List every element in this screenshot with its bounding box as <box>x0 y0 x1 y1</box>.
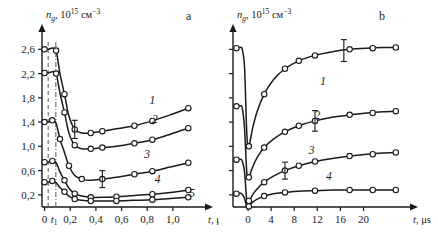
data-marker <box>370 187 375 192</box>
data-marker <box>42 47 47 52</box>
data-marker <box>261 193 266 198</box>
data-marker <box>186 160 191 165</box>
data-marker <box>347 153 352 158</box>
x-tick-label: 0,8 <box>140 213 154 225</box>
x-tick-label-t1: t1 <box>51 213 58 228</box>
curve-label-3: 3 <box>308 144 315 156</box>
x-axis-name: t, μs <box>413 214 431 225</box>
curve-line-1 <box>234 47 397 148</box>
curve-label-1: 1 <box>149 94 155 106</box>
data-marker <box>347 187 352 192</box>
data-marker <box>234 157 239 162</box>
data-marker <box>57 136 62 141</box>
x-tick-label: 1,0 <box>166 213 180 225</box>
data-marker <box>50 158 55 163</box>
data-marker <box>246 204 251 209</box>
y-tick-label: 2,6 <box>21 43 35 55</box>
y-axis-title: ng, 1015 см−3 <box>237 7 291 23</box>
y-tick-label: 1,0 <box>21 140 35 152</box>
data-marker <box>53 48 58 53</box>
data-marker <box>88 130 93 135</box>
data-marker <box>234 45 239 50</box>
x-axis-name: t, μs <box>208 214 219 225</box>
data-marker <box>246 144 251 149</box>
figure-root: ng, 1015 см−3a00,20,40,60,81,0t1t, μs0,2… <box>0 0 438 239</box>
data-marker <box>393 187 398 192</box>
curve-label-4: 4 <box>326 170 332 182</box>
data-marker <box>261 92 266 97</box>
chart-svg-b: ng, 1015 см−3b048121620t, μs1234 <box>219 0 438 239</box>
data-marker <box>234 191 239 196</box>
axis-title-group: ng, 1015 см−3 <box>46 7 100 23</box>
axis-title-group: ng, 1015 см−3 <box>237 7 291 23</box>
data-marker <box>72 196 77 201</box>
x-tick-label: 0,2 <box>63 213 77 225</box>
data-marker <box>234 104 239 109</box>
data-marker <box>282 66 287 71</box>
data-marker <box>53 71 58 76</box>
y-axis-arrow <box>229 24 236 32</box>
data-marker <box>72 191 77 196</box>
y-tick-label: 2,2 <box>21 68 35 80</box>
y-axis-arrow <box>38 24 45 32</box>
data-marker <box>132 141 137 146</box>
data-marker <box>62 92 67 97</box>
data-marker <box>132 172 137 177</box>
x-tick-label: 0 <box>42 213 48 225</box>
data-marker <box>150 192 155 197</box>
data-marker <box>62 189 67 194</box>
data-marker <box>370 45 375 50</box>
data-marker <box>42 179 47 184</box>
x-tick-label: 4 <box>268 213 274 225</box>
data-marker <box>150 197 155 202</box>
x-tick-label: 8 <box>291 213 297 225</box>
data-marker <box>132 123 137 128</box>
data-marker <box>296 123 301 128</box>
data-marker <box>100 145 105 150</box>
data-marker <box>312 159 317 164</box>
data-marker <box>246 175 251 180</box>
panel-label-b: b <box>379 9 385 23</box>
data-marker <box>50 118 55 123</box>
data-marker <box>66 163 71 168</box>
data-marker <box>370 152 375 157</box>
data-marker <box>42 159 47 164</box>
data-marker <box>347 47 352 52</box>
y-tick-label: 1,8 <box>21 92 35 104</box>
data-marker <box>282 190 287 195</box>
data-marker <box>42 119 47 124</box>
x-tick-label: 0,4 <box>89 213 103 225</box>
data-marker <box>42 70 47 75</box>
curve-label-1: 1 <box>320 75 326 87</box>
data-marker <box>282 129 287 134</box>
data-marker <box>393 45 398 50</box>
data-marker <box>347 112 352 117</box>
panel-label-a: a <box>186 9 192 23</box>
x-tick-label: 12 <box>312 213 323 225</box>
series-1: 1 <box>42 47 191 139</box>
x-tick-label: 0 <box>245 213 251 225</box>
series-2: 2 <box>42 70 191 151</box>
series-2: 2 <box>234 104 399 180</box>
data-marker <box>246 198 251 203</box>
x-axis-arrow <box>205 203 213 210</box>
curve-label-2: 2 <box>152 113 158 125</box>
data-marker <box>150 137 155 142</box>
y-tick-label: 0,2 <box>21 189 35 201</box>
data-marker <box>50 178 55 183</box>
data-marker <box>261 145 266 150</box>
y-tick-label: 0,6 <box>21 165 35 177</box>
data-marker <box>393 150 398 155</box>
data-marker <box>312 188 317 193</box>
series-1: 1 <box>234 40 399 149</box>
x-tick-label: 0,6 <box>115 213 129 225</box>
data-marker <box>312 53 317 58</box>
data-marker <box>88 198 93 203</box>
x-axis-arrow <box>410 203 418 210</box>
data-marker <box>370 110 375 115</box>
x-tick-label: 16 <box>335 213 347 225</box>
data-marker <box>88 146 93 151</box>
curve-label-4: 4 <box>155 173 161 185</box>
data-marker <box>186 105 191 110</box>
series-3: 3 <box>234 144 399 204</box>
